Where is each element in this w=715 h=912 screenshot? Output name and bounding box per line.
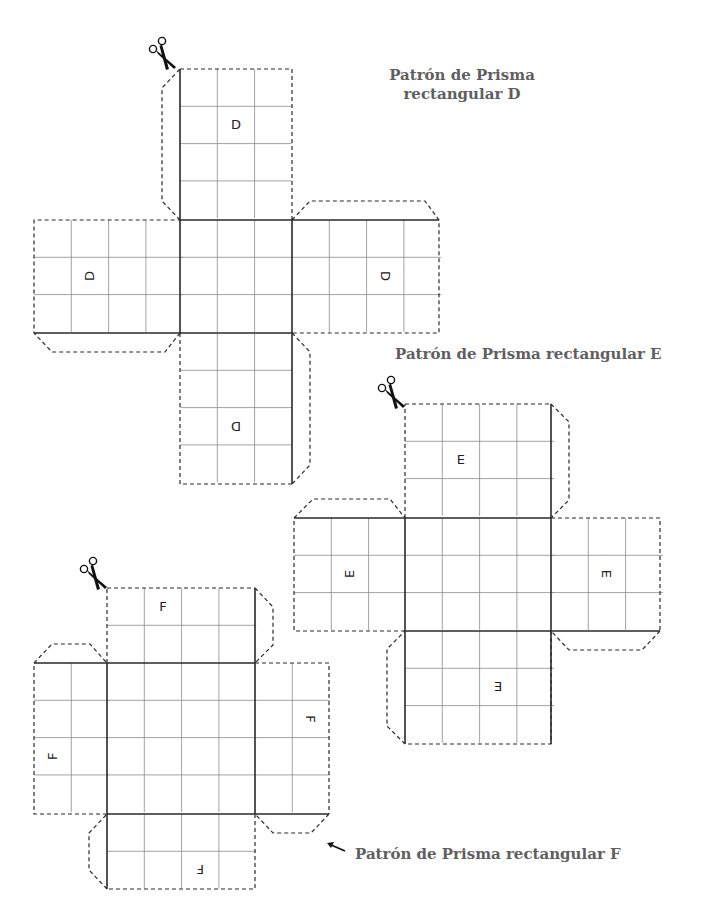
panel-top: F <box>107 588 256 663</box>
panel-right: F <box>255 663 330 812</box>
face-label: E <box>457 452 465 467</box>
title-prism-d-line1: Patrón de Prisma <box>372 66 552 85</box>
face-label: D <box>231 117 241 132</box>
panel-top: E <box>405 404 554 516</box>
panel-right: D <box>292 220 441 332</box>
face-label: D <box>82 271 97 281</box>
arrow-up-left-icon <box>327 842 345 851</box>
face-label: F <box>159 599 166 614</box>
title-prism-d: Patrón de Prisma rectangular D <box>372 66 552 104</box>
net-f: FFFF <box>34 557 330 889</box>
face-label: E <box>342 570 357 578</box>
face-label: D <box>231 419 241 434</box>
panel-center <box>405 518 554 630</box>
title-prism-f: Patrón de Prisma rectangular F <box>355 845 621 864</box>
face-label: F <box>197 862 204 877</box>
title-prism-d-line2: rectangular D <box>372 85 552 104</box>
scissors-icon <box>80 557 107 590</box>
face-label: E <box>494 679 502 694</box>
nets-layer: DDDDEEEEFFFF <box>34 37 663 889</box>
panel-top: D <box>180 69 292 218</box>
panel-left: D <box>34 220 183 332</box>
panel-bottom: E <box>405 631 554 743</box>
net-d: DDDD <box>34 37 441 484</box>
face-label: E <box>599 570 614 578</box>
face-label: F <box>45 753 60 760</box>
prism-nets-diagram: DDDDEEEEFFFF <box>0 0 715 912</box>
panel-center <box>180 220 292 332</box>
face-label: D <box>378 271 393 281</box>
scissors-icon <box>378 376 405 409</box>
panel-bottom: F <box>107 814 256 889</box>
panel-bottom: D <box>180 333 292 482</box>
net-e: EEEE <box>294 376 663 744</box>
scissors-icon <box>149 37 176 70</box>
panel-left: E <box>294 518 406 630</box>
panel-center <box>107 663 256 812</box>
title-prism-e: Patrón de Prisma rectangular E <box>395 345 661 364</box>
face-label: F <box>303 715 318 722</box>
panel-right: E <box>551 518 663 630</box>
panel-left: F <box>34 663 109 812</box>
